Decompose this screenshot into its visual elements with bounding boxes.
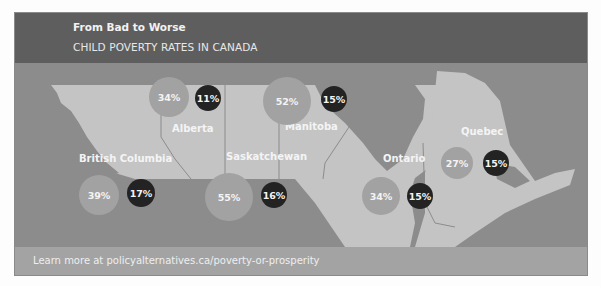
bubble-bc-indigenous: 39%: [79, 175, 119, 215]
label-saskatchewan: Saskatchewan: [226, 151, 307, 162]
label-british-columbia: British Columbia: [79, 153, 172, 164]
subtitle: From Bad to Worse: [73, 21, 186, 33]
label-quebec: Quebec: [461, 126, 503, 137]
infographic-frame: From Bad to Worse CHILD POVERTY RATES IN…: [14, 12, 588, 276]
footer-band: Learn more at policyalternatives.ca/pove…: [15, 247, 587, 275]
bubble-manitoba-non-indigenous: 15%: [321, 86, 347, 112]
bubble-manitoba-indigenous: 52%: [263, 77, 311, 125]
bubble-alberta-non-indigenous: 11%: [195, 85, 221, 111]
bubble-saskatchewan-non-indigenous: 16%: [261, 182, 287, 208]
bubble-bc-non-indigenous: 17%: [127, 179, 155, 207]
bubble-quebec-indigenous: 27%: [441, 147, 473, 179]
label-alberta: Alberta: [172, 123, 214, 134]
bubble-saskatchewan-indigenous: 55%: [205, 173, 253, 221]
header-band: From Bad to Worse CHILD POVERTY RATES IN…: [15, 13, 587, 63]
label-ontario: Ontario: [383, 153, 425, 164]
chart-title: CHILD POVERTY RATES IN CANADA: [73, 41, 258, 53]
bubble-alberta-indigenous: 34%: [149, 77, 189, 117]
bubble-ontario-non-indigenous: 15%: [407, 183, 433, 209]
bubble-quebec-non-indigenous: 15%: [483, 150, 509, 176]
canada-map: Alberta Manitoba British Columbia Saskat…: [15, 63, 587, 247]
footer-link-text: Learn more at policyalternatives.ca/pove…: [33, 255, 320, 266]
bubble-ontario-indigenous: 34%: [362, 177, 400, 215]
